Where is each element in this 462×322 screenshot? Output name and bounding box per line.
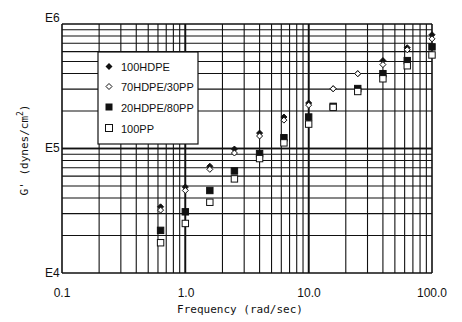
open-square-icon <box>330 104 336 110</box>
open-diamond-icon <box>330 86 336 92</box>
open-diamond-icon <box>355 71 361 77</box>
open-diamond-icon <box>429 36 435 42</box>
open-square-icon <box>281 140 287 146</box>
open-square-icon <box>157 240 163 246</box>
legend-label: 100HDPE <box>121 61 170 73</box>
x-tick-100.0: 100.0 <box>417 286 447 300</box>
y-tick-e4: E4 <box>45 266 60 280</box>
y-axis-title-end: ) <box>18 105 31 112</box>
x-tick-1.0: 1.0 <box>178 286 195 300</box>
open-square-icon <box>380 76 386 82</box>
open-square-icon <box>429 52 435 58</box>
open-square-icon <box>106 125 113 132</box>
x-axis-title: Frequency (rad/sec) <box>177 303 303 316</box>
open-square-icon <box>404 63 410 69</box>
open-square-icon <box>355 88 361 94</box>
x-tick-0.1: 0.1 <box>54 286 71 300</box>
y-tick-e5: E5 <box>45 141 60 155</box>
open-square-icon <box>207 199 213 205</box>
open-diamond-icon <box>380 62 386 68</box>
filled-square-icon <box>207 187 213 193</box>
open-square-icon <box>231 176 237 182</box>
legend-label: 100PP <box>121 123 154 135</box>
filled-square-icon <box>182 209 188 215</box>
filled-square-icon <box>429 44 435 50</box>
filled-square-icon <box>231 168 237 174</box>
open-square-icon <box>182 220 188 226</box>
legend-label: 20HDPE/80PP <box>121 102 194 114</box>
svg-text:G' (dynes/cm2): G' (dynes/cm2) <box>16 105 31 196</box>
filled-square-icon <box>106 104 113 111</box>
y-axis-title-text: G' (dynes/cm <box>18 116 31 196</box>
y-tick-e6: E6 <box>45 11 60 25</box>
legend-label: 70HDPE/30PP <box>121 81 194 93</box>
open-diamond-icon <box>231 150 237 156</box>
filled-square-icon <box>305 114 311 120</box>
x-tick-10.0: 10.0 <box>297 286 321 300</box>
y-axis-title: G' (dynes/cm2) <box>16 105 31 196</box>
open-square-icon <box>305 121 311 127</box>
open-square-icon <box>256 155 262 161</box>
filled-square-icon <box>157 227 163 233</box>
chart: 100HDPE 70HDPE/30PP 20HDPE/80PP 100PP E6… <box>0 0 462 322</box>
